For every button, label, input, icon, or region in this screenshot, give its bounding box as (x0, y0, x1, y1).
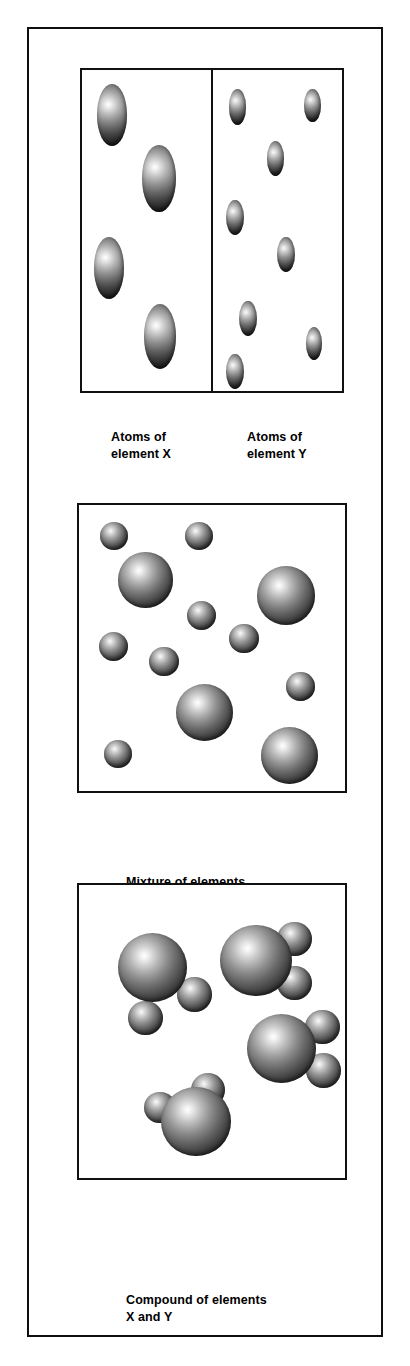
atom-y (226, 354, 244, 389)
atom-y (306, 327, 322, 360)
atom-x (176, 684, 233, 741)
atom-x (144, 304, 176, 368)
atom-y (239, 301, 257, 336)
panel-half-element-y (212, 70, 342, 391)
panel-compound (77, 883, 347, 1180)
atom-y (277, 237, 295, 272)
atom-x (97, 84, 128, 146)
caption-compound-of-elements: Compound of elements X and Y (126, 1292, 346, 1326)
atom-y (187, 601, 216, 630)
atom-x (161, 1087, 230, 1156)
atom-y (104, 740, 132, 768)
atom-x (142, 145, 175, 211)
atom-x (94, 237, 125, 299)
atom-x (257, 566, 315, 624)
atom-y (229, 624, 258, 653)
atom-y (286, 672, 314, 700)
atom-y (267, 141, 285, 176)
panel-elements (80, 68, 344, 393)
panel-half-element-x (82, 70, 212, 391)
atom-y (304, 89, 320, 122)
atom-y (185, 522, 213, 550)
atom-x (261, 727, 318, 784)
figure-outer-frame: Atoms of element X Atoms of element Y Mi… (27, 27, 383, 1337)
panel-divider (211, 70, 213, 391)
caption-atoms-of-element-y: Atoms of element Y (247, 429, 367, 463)
molecule-xy2 (79, 885, 345, 1178)
atom-y (226, 200, 244, 235)
caption-atoms-of-element-x: Atoms of element X (111, 429, 231, 463)
atom-y (100, 522, 128, 550)
panel-mixture (77, 503, 347, 793)
atom-y (149, 647, 178, 676)
atom-y (229, 89, 247, 124)
atom-x (118, 552, 174, 608)
atom-y (99, 632, 128, 661)
